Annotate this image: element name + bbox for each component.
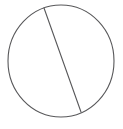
circle-chord-diagram	[0, 0, 123, 129]
figure-background	[0, 0, 123, 129]
figure-container: Circle divided by a chord	[0, 0, 123, 129]
